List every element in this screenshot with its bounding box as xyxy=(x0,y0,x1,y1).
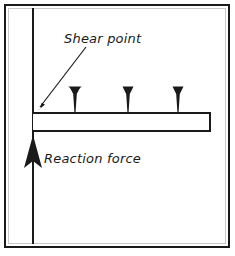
diagram-canvas: Shear point Reaction force xyxy=(0,0,235,256)
load-arrow-1 xyxy=(68,86,82,112)
shear-point-figure: Shear point Reaction force xyxy=(0,0,235,256)
load-arrow-3 xyxy=(173,87,184,113)
reaction-force-arrow xyxy=(24,135,42,205)
load-arrow-2 xyxy=(123,87,134,113)
reaction-force-label: Reaction force xyxy=(44,151,141,166)
shear-point-label: Shear point xyxy=(64,31,142,46)
beam-outline xyxy=(33,113,210,131)
shear-point-leader-line xyxy=(36,47,86,112)
